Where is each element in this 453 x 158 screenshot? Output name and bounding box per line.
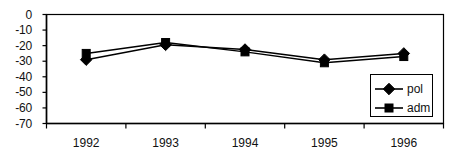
legend-item-adm: adm	[371, 98, 432, 117]
legend-label: pol	[407, 83, 423, 95]
legend-item-pol: pol	[371, 79, 432, 98]
legend-marker-diamond-icon	[374, 81, 404, 97]
x-tick-label: 1992	[73, 137, 100, 149]
line-chart: 0-10-20-30-40-50-60-70 19921993199419951…	[0, 0, 453, 158]
legend: poladm	[370, 74, 433, 117]
legend-marker-square-icon	[374, 100, 404, 116]
x-tick-label: 1995	[311, 137, 338, 149]
x-tick-label: 1994	[232, 137, 259, 149]
legend-label: adm	[407, 102, 430, 114]
x-tick-label: 1996	[390, 137, 417, 149]
x-tick-label: 1993	[152, 137, 179, 149]
